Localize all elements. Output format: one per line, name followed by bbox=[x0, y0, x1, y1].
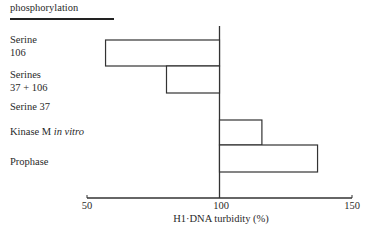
bar-1 bbox=[167, 66, 220, 93]
bar-0 bbox=[106, 40, 220, 66]
chart-plot bbox=[0, 0, 379, 239]
x-tick-150: 150 bbox=[344, 200, 360, 211]
x-tick-50: 50 bbox=[82, 200, 93, 211]
bar-3 bbox=[220, 120, 262, 145]
x-tick-100: 100 bbox=[213, 200, 229, 211]
x-axis-label: H1·DNA turbidity (%) bbox=[173, 213, 269, 224]
bar-4 bbox=[220, 145, 318, 172]
